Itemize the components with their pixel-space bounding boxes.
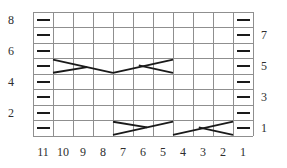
stitch-label-3: 3 — [200, 146, 206, 158]
stitch-label-7: 7 — [120, 146, 126, 158]
cable-row5-sts7-5-icon — [139, 65, 173, 72]
row-label-right-7: 7 — [261, 29, 267, 41]
stitch-label-8: 8 — [100, 146, 106, 158]
chart-grid-svg — [0, 0, 287, 168]
row-label-left-4: 4 — [8, 76, 14, 88]
row-label-left-8: 8 — [8, 14, 14, 26]
stitch-label-10: 10 — [57, 146, 69, 158]
row-label-left-6: 6 — [8, 45, 14, 57]
stitch-label-2: 2 — [220, 146, 226, 158]
stitch-label-4: 4 — [180, 146, 186, 158]
stitch-label-6: 6 — [140, 146, 146, 158]
row-label-right-1: 1 — [261, 122, 267, 134]
stitch-label-1: 1 — [240, 146, 246, 158]
stitch-label-11: 11 — [37, 146, 49, 158]
stitch-label-9: 9 — [80, 146, 86, 158]
knitting-chart: 8642 7531 1110987654321 — [0, 0, 287, 168]
cable-row1-sts7-5-icon — [113, 122, 147, 128]
row-label-right-3: 3 — [261, 91, 267, 103]
cable-row1-sts4-2-icon — [199, 127, 233, 134]
row-label-right-5: 5 — [261, 60, 267, 72]
row-label-left-2: 2 — [8, 107, 14, 119]
stitch-label-5: 5 — [160, 146, 166, 158]
cable-row5-sts10-8-icon — [53, 67, 87, 73]
